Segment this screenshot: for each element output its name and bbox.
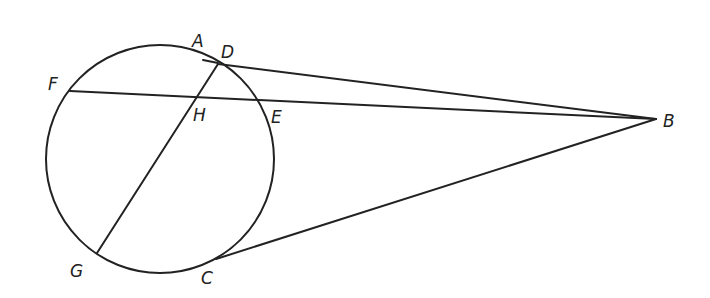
label-g: G xyxy=(70,261,83,281)
label-h: H xyxy=(193,105,206,125)
segment-db xyxy=(218,64,656,119)
tangent-cb xyxy=(216,119,656,259)
circle xyxy=(46,45,274,273)
label-f: F xyxy=(48,74,58,94)
label-c: C xyxy=(201,268,213,288)
label-b: B xyxy=(663,111,675,131)
label-a: A xyxy=(191,31,204,51)
label-e: E xyxy=(271,107,282,127)
geometry-diagram: A D F H E B G C xyxy=(0,0,710,298)
label-d: D xyxy=(221,42,234,62)
secant-fb xyxy=(70,91,656,119)
